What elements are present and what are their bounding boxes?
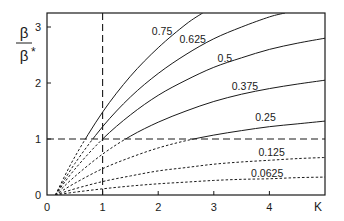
x-axis-label: K	[314, 200, 322, 214]
y-axis-label-numerator: β	[20, 24, 29, 41]
series-line-0-0625-solid	[55, 177, 325, 195]
x-tick-label: 3	[211, 201, 217, 213]
y-axis-ticks: 0123	[35, 21, 51, 201]
series-label-0-125: 0.125	[258, 146, 284, 158]
chart: β β * 0.750.6250.50.3750.250.1250.0625 0…	[0, 0, 344, 221]
series-label-0-625: 0.625	[180, 33, 206, 45]
y-tick-label: 3	[35, 21, 41, 33]
y-axis-label-denominator: β	[20, 47, 29, 64]
y-tick-label: 1	[35, 133, 41, 145]
series-labels: 0.750.6250.50.3750.250.1250.0625	[152, 25, 285, 179]
series-label-0-5: 0.5	[218, 52, 233, 64]
series-line-0-0625-dashed	[55, 177, 325, 195]
x-axis-ticks: 01234	[44, 191, 273, 213]
x-tick-label: 4	[266, 201, 272, 213]
y-axis-label: β β *	[16, 24, 36, 64]
series-label-0-75: 0.75	[152, 25, 173, 37]
y-axis-label-asterisk: *	[31, 45, 36, 59]
series-label-0-0625: 0.0625	[251, 167, 283, 179]
x-tick-label: 2	[155, 201, 161, 213]
series-0-0625	[55, 177, 325, 195]
series-label-0-25: 0.25	[255, 111, 276, 123]
x-tick-label: 0	[44, 201, 50, 213]
y-tick-label: 2	[35, 77, 41, 89]
y-tick-label: 0	[35, 189, 41, 201]
x-tick-label: 1	[100, 201, 106, 213]
series-label-0-375: 0.375	[232, 80, 258, 92]
